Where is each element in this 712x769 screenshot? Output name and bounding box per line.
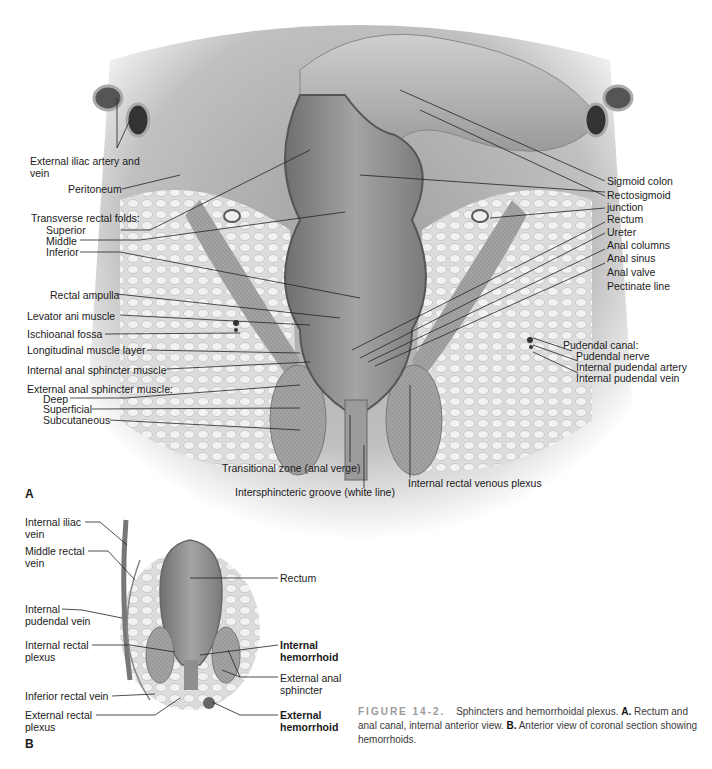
label-anal-valve: Anal valve	[607, 266, 655, 278]
label-sphincter-subcutaneous: Subcutaneous	[43, 414, 110, 426]
label-internal-iliac-vein: Internal iliac vein	[25, 516, 95, 540]
label-levator-ani: Levator ani muscle	[27, 310, 115, 322]
label-sigmoid-colon: Sigmoid colon	[607, 175, 673, 187]
label-rectosigmoid-junction-text: Rectosigmoid junction	[607, 189, 687, 213]
label-internal-rectal-venous-plexus: Internal rectal venous plexus	[408, 477, 542, 489]
label-rectal-ampulla: Rectal ampulla	[50, 289, 119, 301]
label-internal-rectal-plexus: Internal rectal plexus	[25, 639, 110, 663]
label-pectinate-line: Pectinate line	[607, 280, 670, 292]
label-external-anal-sphincter-b: External anal sphincter	[280, 672, 355, 696]
label-transitional-zone: Transitional zone (anal verge)	[222, 462, 361, 474]
label-rectum-a: Rectum	[607, 213, 643, 225]
label-ureter: Ureter	[607, 226, 636, 238]
label-internal-pudendal-vein-b: Internal pudendal vein	[25, 603, 105, 627]
label-rectum-b: Rectum	[280, 572, 316, 584]
label-peritoneum: Peritoneum	[68, 183, 122, 195]
label-inferior-rectal-vein: Inferior rectal vein	[25, 690, 108, 702]
label-middle-rectal-vein: Middle rectal vein	[25, 545, 105, 569]
label-internal-anal-sphincter: Internal anal sphincter muscle	[27, 364, 167, 376]
label-external-iliac-artery-vein: External iliac artery and vein	[30, 155, 150, 179]
label-internal-pudendal-vein: Internal pudendal vein	[576, 372, 679, 384]
figure-number: FIGURE 14-2.	[358, 706, 445, 717]
panel-b-letter: B	[25, 737, 34, 751]
label-external-hemorrhoid: External hemorrhoid	[280, 709, 355, 733]
panel-a-letter: A	[25, 487, 34, 501]
caption-b-marker: B.	[506, 720, 516, 731]
caption-a-marker: A.	[621, 706, 631, 717]
label-anal-sinus: Anal sinus	[607, 252, 655, 264]
label-transverse-rectal-folds: Transverse rectal folds:	[31, 212, 140, 224]
label-intersphincteric-groove: Intersphincteric groove (white line)	[235, 486, 395, 498]
label-longitudinal-muscle-layer: Longitudinal muscle layer	[27, 344, 145, 356]
label-external-rectal-plexus: External rectal plexus	[25, 709, 110, 733]
label-ischioanal-fossa: Ischioanal fossa	[27, 328, 102, 340]
label-fold-inferior: Inferior	[46, 246, 79, 258]
label-anal-columns: Anal columns	[607, 239, 670, 251]
label-internal-hemorrhoid: Internal hemorrhoid	[280, 639, 355, 663]
figure-caption: FIGURE 14-2. Sphincters and hemorrhoidal…	[358, 705, 703, 747]
caption-lead: Sphincters and hemorrhoidal plexus.	[456, 706, 618, 717]
